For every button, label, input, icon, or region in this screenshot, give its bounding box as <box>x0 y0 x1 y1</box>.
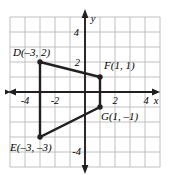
point-label-g: G(1, –1) <box>101 110 139 123</box>
vertex-point-f <box>97 74 102 79</box>
y-tick-label-pos2: 2 <box>75 57 81 68</box>
coordinate-plane-svg: -4 -2 2 4 4 2 -4 x y D(–3, 2) F(1, 1) G(… <box>0 0 172 175</box>
point-label-f: F(1, 1) <box>103 59 135 72</box>
y-tick-label-neg4: -4 <box>72 146 81 157</box>
point-label-d: D(–3, 2) <box>12 46 51 59</box>
vertex-point-d <box>37 59 42 64</box>
x-axis-label: x <box>153 95 159 106</box>
x-tick-label-neg2: -2 <box>51 95 60 106</box>
y-tick-label-pos4: 4 <box>74 27 80 38</box>
x-tick-label-pos2: 2 <box>112 95 118 106</box>
vertex-point-g <box>97 104 102 109</box>
vertex-point-e <box>37 134 42 139</box>
coordinate-plane-figure: -4 -2 2 4 4 2 -4 x y D(–3, 2) F(1, 1) G(… <box>0 0 172 175</box>
point-label-e: E(–3, –3) <box>9 141 52 154</box>
y-axis-label: y <box>90 13 96 24</box>
x-tick-label-neg4: -4 <box>21 95 30 106</box>
x-tick-label-pos4: 4 <box>143 95 149 106</box>
